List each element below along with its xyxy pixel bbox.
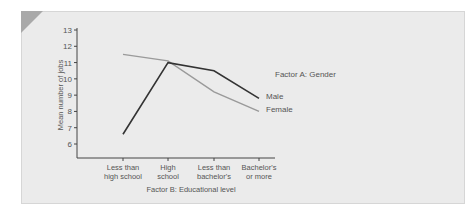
x-category-label: Bachelor's (242, 163, 277, 172)
x-category-label: school (157, 172, 179, 181)
y-axis: 678910111213 (63, 26, 77, 158)
x-category-label: or more (246, 172, 272, 181)
x-category-label: Less than (198, 163, 231, 172)
x-category-label: high school (104, 172, 142, 181)
legend: Factor A: GenderMaleFemale (266, 70, 336, 114)
chart-lines (123, 54, 259, 134)
y-axis-title: Mean number of jobs (56, 60, 65, 131)
y-tick-label: 11 (64, 59, 73, 68)
y-tick-label: 8 (68, 107, 73, 116)
y-tick-label: 7 (68, 124, 73, 133)
series-line-male (123, 63, 259, 135)
y-tick-label: 13 (63, 26, 72, 35)
legend-title: Factor A: Gender (275, 70, 336, 79)
x-axis: Less thanhigh schoolHighschoolLess thanb… (77, 158, 277, 181)
y-tick-label: 12 (63, 42, 72, 51)
y-tick-label: 6 (68, 140, 73, 149)
legend-label-male: Male (266, 92, 284, 101)
line-chart: 678910111213 Less thanhigh schoolHighsch… (0, 0, 475, 212)
y-tick-label: 9 (68, 91, 73, 100)
x-category-label: Less than (107, 163, 140, 172)
legend-label-female: Female (266, 105, 293, 114)
x-category-label: bachelor's (197, 172, 231, 181)
x-axis-title: Factor B: Educational level (146, 185, 236, 194)
x-category-label: High (160, 163, 175, 172)
